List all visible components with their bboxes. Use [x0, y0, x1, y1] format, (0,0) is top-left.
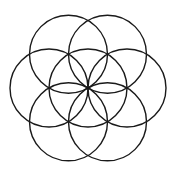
seed-of-life-diagram	[0, 0, 178, 173]
